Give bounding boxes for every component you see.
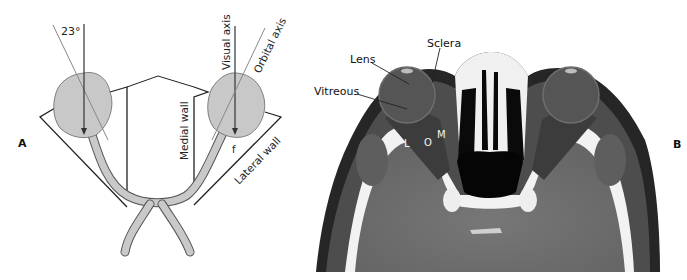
axial-ct-image: Sclera Lens Vitreous L O M — [310, 0, 687, 280]
lateral-wall-label: Lateral wall — [232, 134, 283, 186]
panel-b-letter: B — [673, 138, 681, 151]
medial-wall-label: Medial wall — [178, 101, 190, 160]
ct-sphenoid-sinus — [457, 151, 523, 198]
right-globe — [208, 73, 265, 137]
panel-a-diagram: 23° Visual axis Orbital axis Medial wall… — [0, 0, 310, 280]
ct-left-lens — [401, 69, 413, 74]
ct-left-temporalis — [356, 134, 388, 186]
ct-right-temporalis — [594, 134, 626, 186]
lateral-rectus-label: L — [404, 138, 410, 149]
optic-nerves — [92, 135, 222, 252]
orbit-axes-diagram: 23° Visual axis Orbital axis Medial wall… — [0, 0, 310, 280]
lens-label: Lens — [350, 53, 376, 66]
ct-left-globe — [379, 67, 435, 123]
left-globe — [54, 72, 112, 137]
sclera-label: Sclera — [427, 37, 461, 50]
vitreous-label: Vitreous — [314, 85, 359, 98]
panel-b-ct-scan: Sclera Lens Vitreous L O M B — [310, 0, 687, 280]
optic-nerve-label: O — [424, 137, 432, 148]
angle-label: 23° — [61, 25, 81, 38]
ct-right-lens — [565, 69, 577, 74]
ct-right-globe — [543, 67, 599, 123]
medial-rectus-label: M — [437, 129, 446, 140]
ct-right-clinoid — [519, 188, 537, 212]
visual-axis-label: Visual axis — [220, 14, 232, 70]
orbit-roof-line — [127, 76, 194, 87]
ct-left-clinoid — [443, 188, 461, 212]
panel-a-letter: A — [18, 137, 27, 150]
fovea-label: f — [232, 144, 236, 155]
